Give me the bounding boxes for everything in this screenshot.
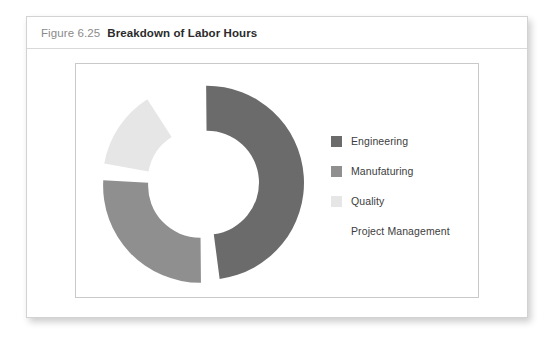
legend-color-swatch: [331, 136, 342, 147]
figure-number: Figure 6.25: [41, 27, 100, 39]
chart-legend: EngineeringManufaturingQualityProject Ma…: [331, 126, 476, 246]
doughnut-slice-group: [103, 83, 304, 283]
legend-item-label: Quality: [351, 195, 384, 207]
legend-item-label: Manufaturing: [351, 165, 414, 177]
doughnut-slice[interactable]: [104, 99, 171, 171]
legend-item[interactable]: Manufaturing: [331, 156, 476, 186]
legend-item-label: Engineering: [351, 135, 408, 147]
legend-color-swatch: [331, 166, 342, 177]
doughnut-chart-svg: [88, 66, 318, 296]
legend-item[interactable]: Engineering: [331, 126, 476, 156]
figure-title-bar: Figure 6.25 Breakdown of Labor Hours: [27, 17, 527, 49]
chart-plot-area: EngineeringManufaturingQualityProject Ma…: [75, 63, 479, 298]
legend-color-swatch: [331, 196, 342, 207]
legend-item-label: Project Management: [351, 225, 450, 237]
figure-caption: Breakdown of Labor Hours: [107, 27, 257, 39]
doughnut-chart: [88, 66, 318, 296]
legend-item[interactable]: Quality: [331, 186, 476, 216]
legend-item[interactable]: Project Management: [331, 216, 476, 246]
doughnut-slice[interactable]: [206, 86, 304, 279]
figure-card: Figure 6.25 Breakdown of Labor Hours Eng…: [26, 16, 528, 318]
doughnut-slice[interactable]: [160, 83, 195, 132]
doughnut-slice[interactable]: [103, 180, 201, 283]
legend-color-swatch: [331, 226, 342, 237]
